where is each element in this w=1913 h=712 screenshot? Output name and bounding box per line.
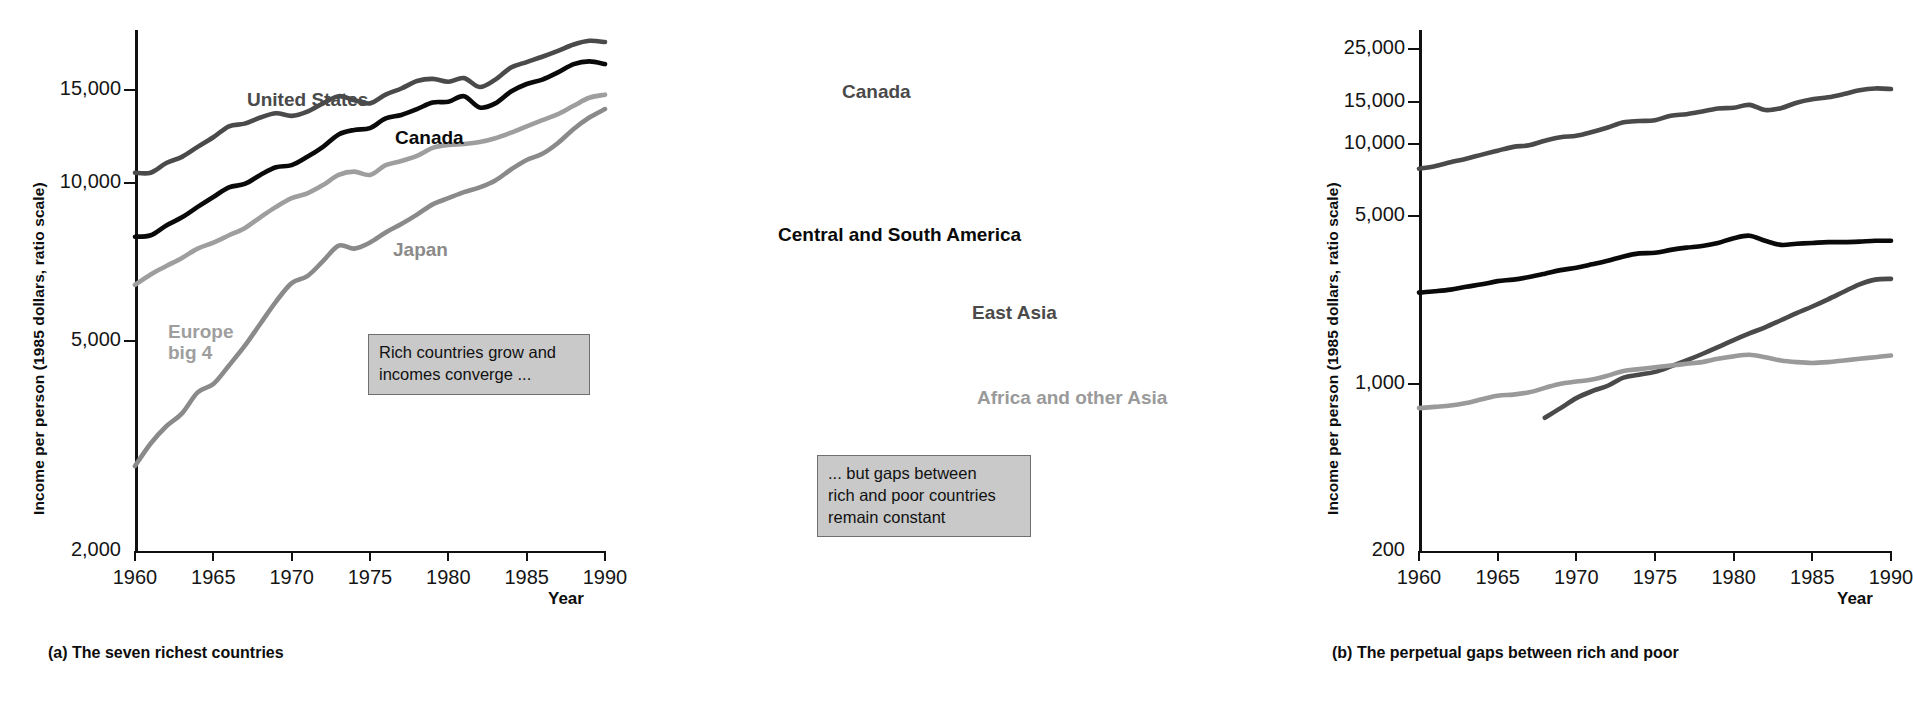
panel-b-caption: (b) The perpetual gaps between rich and … [1332, 644, 1679, 662]
y-tick-label: 15,000 [1, 77, 121, 100]
annotation-callout: Rich countries grow and incomes converge… [368, 334, 590, 395]
x-tick-mark [447, 551, 449, 561]
x-tick-label: 1960 [1397, 566, 1442, 589]
series-line-africa-and-other-asia [1419, 355, 1891, 408]
x-tick-mark [526, 551, 528, 561]
series-line-canada [1419, 88, 1891, 168]
x-tick-label: 1985 [1790, 566, 1835, 589]
y-tick-label: 1,000 [1285, 371, 1405, 394]
x-tick-label: 1970 [1554, 566, 1599, 589]
panel-a-caption: (a) The seven richest countries [48, 644, 284, 662]
series-label-canada: Canada [395, 128, 464, 149]
panel-b-series-lines [1419, 30, 1891, 553]
annotation-callout: ... but gaps between rich and poor count… [817, 455, 1031, 537]
x-tick-label: 1975 [348, 566, 393, 589]
x-tick-label: 1965 [191, 566, 236, 589]
x-tick-label: 1970 [269, 566, 314, 589]
y-tick-mark [1408, 48, 1419, 50]
y-tick-mark [1408, 143, 1419, 145]
x-tick-label: 1980 [426, 566, 471, 589]
x-tick-mark [369, 551, 371, 561]
series-line-east-asia [1545, 279, 1891, 418]
x-tick-mark [1418, 551, 1420, 561]
y-tick-mark [124, 89, 135, 91]
x-tick-label: 1990 [583, 566, 628, 589]
panel-seven-richest-countries: Income per person (1985 dollars, ratio s… [0, 0, 652, 712]
x-tick-mark [134, 551, 136, 561]
series-label-canada: Canada [842, 82, 911, 103]
y-tick-mark [1408, 101, 1419, 103]
panel-a-x-axis-title: Year [548, 589, 584, 609]
x-tick-mark [1575, 551, 1577, 561]
series-line-europe-big-4 [135, 95, 605, 285]
y-tick-label: 200 [1285, 538, 1405, 561]
series-label-japan: Japan [393, 240, 448, 261]
y-tick-label: 25,000 [1285, 36, 1405, 59]
y-tick-label: 15,000 [1285, 89, 1405, 112]
y-tick-mark [124, 182, 135, 184]
series-label-europe-big-4: Europe big 4 [168, 322, 233, 363]
panel-a-plot-area: 15,00010,0005,0002,000196019651970197519… [135, 30, 605, 553]
y-tick-mark [124, 340, 135, 342]
y-tick-label: 10,000 [1285, 131, 1405, 154]
x-tick-mark [1654, 551, 1656, 561]
series-line-central-and-south-america [1419, 236, 1891, 293]
y-tick-mark [1408, 383, 1419, 385]
panel-a-series-lines [135, 30, 607, 553]
y-tick-label: 10,000 [1, 170, 121, 193]
panel-perpetual-gaps: Income per person (1985 dollars, ratio s… [652, 0, 1305, 712]
x-tick-label: 1960 [113, 566, 158, 589]
series-line-united-states [135, 41, 605, 174]
x-tick-mark [604, 551, 606, 561]
series-label-africa-and-other-asia: Africa and other Asia [977, 388, 1167, 409]
x-tick-label: 1980 [1711, 566, 1756, 589]
x-tick-mark [1733, 551, 1735, 561]
panel-b-x-axis-title: Year [1837, 589, 1873, 609]
x-tick-mark [1811, 551, 1813, 561]
y-tick-label: 2,000 [1, 538, 121, 561]
x-tick-label: 1975 [1633, 566, 1678, 589]
series-line-canada [135, 61, 605, 236]
panel-b-y-axis-title: Income per person (1985 dollars, ratio s… [1324, 182, 1342, 515]
panel-b-plot-area: 25,00015,00010,0005,0001,000200196019651… [1419, 30, 1891, 553]
y-tick-mark [1408, 215, 1419, 217]
x-tick-label: 1965 [1475, 566, 1520, 589]
x-tick-label: 1990 [1869, 566, 1913, 589]
series-label-east-asia: East Asia [972, 303, 1057, 324]
y-tick-label: 5,000 [1285, 203, 1405, 226]
series-label-united-states: United States [247, 90, 368, 111]
series-label-central-and-south-america: Central and South America [778, 225, 1021, 246]
x-tick-mark [1497, 551, 1499, 561]
series-line-japan [135, 109, 605, 466]
x-tick-mark [291, 551, 293, 561]
y-tick-label: 5,000 [1, 328, 121, 351]
x-tick-label: 1985 [504, 566, 549, 589]
x-tick-mark [212, 551, 214, 561]
x-tick-mark [1890, 551, 1892, 561]
